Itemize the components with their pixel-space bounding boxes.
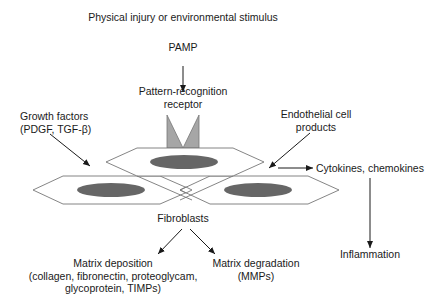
nucleus-icon — [224, 183, 292, 197]
diagram-title: Physical injury or environmental stimulu… — [88, 11, 278, 24]
inflammation-label: Inflammation — [340, 248, 400, 261]
matrix-degradation-line1: Matrix degradation — [213, 257, 300, 270]
matrix-deposition-line2: (collagen, fibronectin, proteoglycam, — [29, 270, 198, 283]
arrow-to-matrix-degradation — [190, 229, 215, 254]
matrix-degradation-line2: (MMPs) — [213, 270, 300, 283]
fibroblasts-label: Fibroblasts — [157, 212, 208, 225]
nucleus-icon — [150, 155, 218, 169]
receptor-label-line2: receptor — [139, 98, 228, 111]
growth-factors-line1: Growth factors — [20, 110, 91, 123]
cytokines-label: Cytokines, chemokines — [316, 162, 424, 175]
endothelial-line2: products — [281, 121, 352, 134]
fibroblast-cell-right — [180, 176, 339, 204]
receptor-label-line1: Pattern-recognition — [139, 85, 228, 98]
fibroblast-cell-top — [106, 148, 264, 176]
fibroblast-diagram: Physical injury or environmental stimulu… — [0, 0, 443, 306]
endothelial-line1: Endothelial cell — [281, 108, 352, 121]
matrix-degradation-label: Matrix degradation (MMPs) — [213, 257, 300, 282]
arrow-endothelial — [269, 133, 310, 168]
endothelial-label: Endothelial cell products — [281, 108, 352, 133]
growth-factors-line2: (PDGF, TGF-β) — [20, 123, 91, 136]
nucleus-icon — [77, 183, 145, 197]
arrow-growth-factors — [50, 134, 90, 166]
growth-factors-label: Growth factors (PDGF, TGF-β) — [20, 110, 91, 135]
matrix-deposition-line3: glycoprotein, TIMPs) — [29, 282, 198, 295]
receptor-icon — [167, 115, 199, 148]
matrix-deposition-line1: Matrix deposition — [29, 257, 198, 270]
arrow-to-matrix-deposition — [158, 229, 182, 254]
pamp-label: PAMP — [169, 41, 198, 54]
receptor-label: Pattern-recognition receptor — [139, 85, 228, 110]
matrix-deposition-label: Matrix deposition (collagen, fibronectin… — [29, 257, 198, 295]
